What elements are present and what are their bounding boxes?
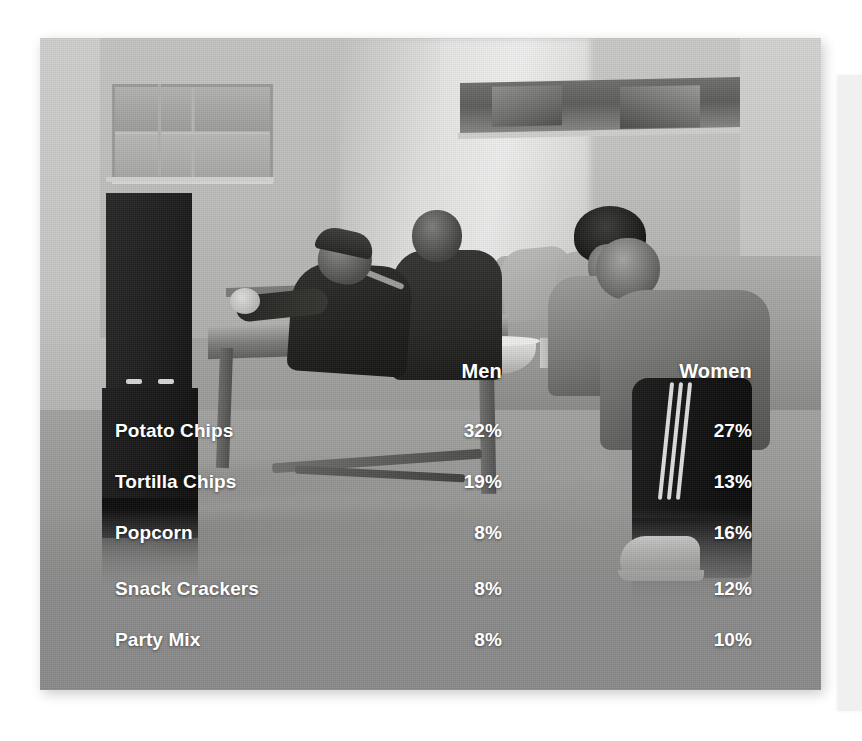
photo-slide: Men Women Potato Chips 32% 27% Tortilla … bbox=[40, 38, 821, 690]
table-row: Potato Chips 32% 27% bbox=[40, 420, 821, 450]
data-table: Men Women Potato Chips 32% 27% Tortilla … bbox=[40, 38, 821, 690]
table-row: Popcorn 8% 16% bbox=[40, 522, 821, 552]
background-panel bbox=[838, 75, 862, 711]
slide-stage: Men Women Potato Chips 32% 27% Tortilla … bbox=[0, 0, 862, 741]
row-value-women: 12% bbox=[40, 578, 752, 600]
row-value-women: 27% bbox=[40, 420, 752, 442]
table-row: Tortilla Chips 19% 13% bbox=[40, 471, 821, 501]
row-value-women: 10% bbox=[40, 629, 752, 651]
table-row: Party Mix 8% 10% bbox=[40, 629, 821, 659]
table-header-row: Men Women bbox=[40, 360, 821, 390]
column-header-women: Women bbox=[40, 360, 752, 383]
row-value-women: 13% bbox=[40, 471, 752, 493]
row-value-women: 16% bbox=[40, 522, 752, 544]
table-row: Snack Crackers 8% 12% bbox=[40, 578, 821, 608]
